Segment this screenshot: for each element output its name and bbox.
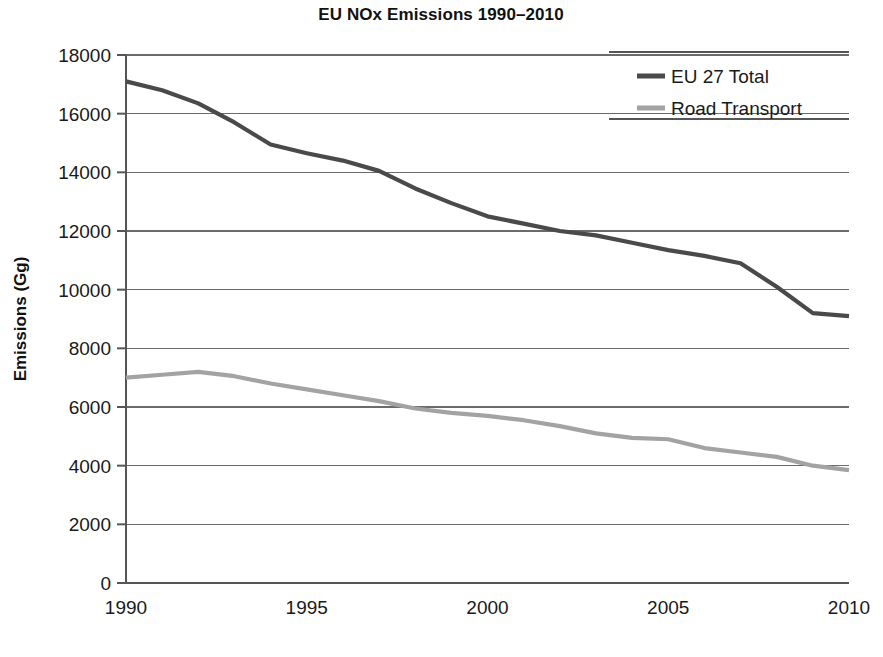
x-tick-label: 1995	[286, 597, 328, 618]
y-tick-label: 10000	[58, 280, 111, 301]
legend-label: EU 27 Total	[671, 66, 769, 87]
x-tick-label: 2005	[647, 597, 689, 618]
y-tick-label: 8000	[69, 338, 111, 359]
chart-legend: EU 27 TotalRoad Transport	[609, 52, 849, 119]
y-tick-label: 6000	[69, 397, 111, 418]
y-axis-ticks: 0200040006000800010000120001400016000180…	[58, 45, 126, 594]
x-tick-label: 2000	[466, 597, 508, 618]
y-tick-label: 0	[100, 573, 111, 594]
y-tick-label: 14000	[58, 162, 111, 183]
series-line	[126, 372, 849, 470]
legend-label: Road Transport	[671, 98, 803, 119]
y-tick-label: 12000	[58, 221, 111, 242]
x-tick-label: 2010	[828, 597, 870, 618]
y-tick-label: 18000	[58, 45, 111, 66]
data-series	[126, 81, 849, 470]
x-tick-label: 1990	[105, 597, 147, 618]
y-tick-label: 4000	[69, 456, 111, 477]
chart-figure: EU NOx Emissions 1990–2010 Emissions (Gg…	[0, 0, 883, 657]
chart-title: EU NOx Emissions 1990–2010	[318, 5, 563, 24]
line-chart: EU NOx Emissions 1990–2010 Emissions (Gg…	[0, 0, 883, 657]
x-axis-ticks: 19901995200020052010	[105, 597, 870, 618]
y-tick-label: 16000	[58, 104, 111, 125]
y-tick-label: 2000	[69, 514, 111, 535]
y-axis-label: Emissions (Gg)	[11, 257, 30, 382]
